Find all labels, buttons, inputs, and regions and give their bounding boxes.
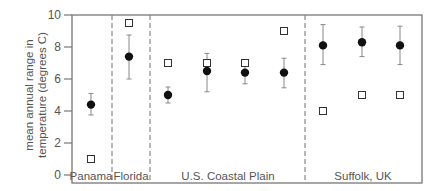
filled-circle-marker xyxy=(280,68,288,76)
axes xyxy=(72,15,422,183)
plot-frame xyxy=(72,15,422,183)
open-square-marker xyxy=(359,92,366,99)
filled-circle-marker xyxy=(125,52,133,60)
y-axis-label: mean annual range in temperature (degree… xyxy=(23,32,48,158)
filled-circle-markers xyxy=(87,38,404,109)
y-axis-ticks: 0246810 xyxy=(48,8,72,182)
filled-circle-marker xyxy=(164,91,172,99)
filled-circle-marker xyxy=(203,67,211,75)
open-square-marker xyxy=(242,60,249,67)
group-labels: PanamaFloridaU.S. Coastal PlainSuffolk, … xyxy=(70,170,392,182)
open-square-marker xyxy=(397,92,404,99)
y-axis-label-line-1: mean annual range in xyxy=(23,39,35,150)
y-tick-label: 10 xyxy=(48,8,62,22)
open-square-marker xyxy=(204,60,211,67)
y-axis-label-line-2: temperature (degrees C) xyxy=(36,32,48,158)
group-label: U.S. Coastal Plain xyxy=(181,170,274,182)
y-tick-label: 8 xyxy=(54,40,61,54)
chart: mean annual range in temperature (degree… xyxy=(0,0,442,191)
filled-circle-marker xyxy=(319,41,327,49)
group-label: Florida xyxy=(113,170,149,182)
open-square-marker xyxy=(281,28,288,35)
y-tick-label: 6 xyxy=(54,72,61,86)
open-square-marker xyxy=(126,20,133,27)
y-tick-label: 0 xyxy=(54,168,61,182)
y-tick-label: 4 xyxy=(54,104,61,118)
filled-circle-marker xyxy=(87,100,95,108)
open-square-markers xyxy=(88,20,404,163)
open-square-marker xyxy=(165,60,172,67)
group-label: Panama xyxy=(70,170,113,182)
open-square-marker xyxy=(88,156,95,163)
filled-circle-marker xyxy=(396,41,404,49)
filled-circle-marker xyxy=(241,68,249,76)
open-square-marker xyxy=(320,108,327,115)
y-tick-label: 2 xyxy=(54,136,61,150)
filled-circle-marker xyxy=(358,38,366,46)
group-label: Suffolk, UK xyxy=(334,170,392,182)
group-dividers xyxy=(112,15,305,183)
